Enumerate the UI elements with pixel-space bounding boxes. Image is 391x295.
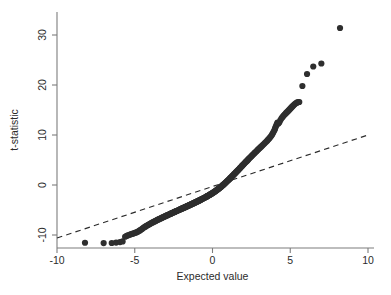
data-points-group [82,25,343,246]
identity-reference-line [57,135,368,238]
x-tick-label: -10 [49,254,64,266]
data-point [101,240,107,246]
qq-plot-canvas: -100102030-10-50510Expected valuet-stati… [0,0,391,295]
x-tick-label: 10 [362,254,374,266]
y-tick-label: 0 [36,182,48,188]
axes-group [52,12,374,253]
x-tick-label: 5 [287,254,293,266]
data-point [304,71,310,77]
y-tick-label: 20 [36,79,48,91]
x-axis-title: Expected value [177,270,249,282]
y-tick-label: -10 [36,227,48,242]
x-tick-label: -5 [130,254,139,266]
data-point [310,63,316,69]
data-point [299,83,305,89]
y-tick-label: 30 [36,29,48,41]
y-tick-label: 10 [36,129,48,141]
data-point [82,240,88,246]
data-point [318,60,324,66]
data-point [337,25,343,31]
qq-plot-figure: -100102030-10-50510Expected valuet-stati… [0,0,391,295]
x-tick-label: 0 [210,254,216,266]
axis-labels-group: -100102030-10-50510Expected valuet-stati… [8,29,374,282]
reference-line-group [57,135,368,238]
data-point [296,99,302,105]
y-axis-title: t-statistic [8,109,20,150]
